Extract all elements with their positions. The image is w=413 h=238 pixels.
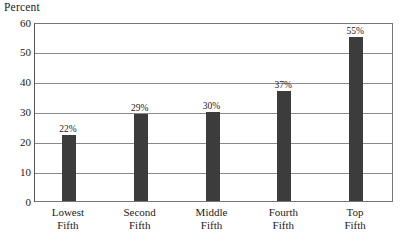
plot-area xyxy=(34,23,393,202)
y-axis-tick-label: 20 xyxy=(5,137,31,148)
y-axis-title: Percent xyxy=(4,1,40,14)
bar-value-label: 55% xyxy=(335,26,375,36)
x-axis-category-line: Fourth xyxy=(251,206,315,219)
x-axis-category-label: TopFifth xyxy=(323,206,387,231)
bar xyxy=(277,91,291,201)
x-axis-category-line: Fifth xyxy=(251,219,315,232)
x-axis-category-line: Fifth xyxy=(36,219,100,232)
y-axis-tick-label: 60 xyxy=(5,18,31,29)
x-axis-category-line: Middle xyxy=(180,206,244,219)
bar xyxy=(134,114,148,201)
x-axis-category-line: Fifth xyxy=(180,219,244,232)
y-axis-tick-label: 30 xyxy=(5,107,31,118)
x-axis-category-label: SecondFifth xyxy=(108,206,172,231)
x-axis-category-line: Second xyxy=(108,206,172,219)
bar-value-label: 37% xyxy=(263,80,303,90)
x-axis-category-line: Top xyxy=(323,206,387,219)
chart-figure: Percent 6050403020100 22%29%30%37%55% Lo… xyxy=(0,0,413,238)
x-axis-category-line: Fifth xyxy=(108,219,172,232)
y-axis-tick-label: 10 xyxy=(5,167,31,178)
bar xyxy=(62,135,76,201)
gridline xyxy=(35,83,392,84)
bar-value-label: 29% xyxy=(120,103,160,113)
x-axis-category-label: FourthFifth xyxy=(251,206,315,231)
x-axis-category-label: LowestFifth xyxy=(36,206,100,231)
bar-value-label: 30% xyxy=(192,101,232,111)
bar xyxy=(349,37,363,201)
gridline xyxy=(35,53,392,54)
x-axis-category-line: Lowest xyxy=(36,206,100,219)
y-axis-tick-label: 50 xyxy=(5,47,31,58)
x-axis-category-line: Fifth xyxy=(323,219,387,232)
bar xyxy=(206,112,220,202)
y-axis-tick-label: 40 xyxy=(5,77,31,88)
x-axis-category-label: MiddleFifth xyxy=(180,206,244,231)
bar-value-label: 22% xyxy=(48,124,88,134)
y-axis-tick-label: 0 xyxy=(5,197,31,208)
